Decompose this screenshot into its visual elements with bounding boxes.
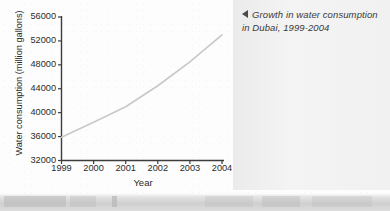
strip-mark: [112, 196, 117, 207]
data-series-line: [62, 35, 223, 137]
strip-mark: [70, 196, 96, 207]
caption-label: Growth in water consumption in Dubai, 19…: [242, 9, 378, 33]
strip-mark: [4, 196, 66, 207]
strip-mark: [205, 196, 253, 207]
figure-caption: Growth in water consumption in Dubai, 19…: [242, 8, 384, 34]
left-triangle-icon: [242, 10, 248, 18]
strip-mark: [312, 196, 372, 207]
strip-mark: [262, 196, 300, 207]
axis-lines: [61, 16, 224, 161]
line-chart: Water consumption (million gallons) 3200…: [0, 0, 236, 193]
plot-area: [0, 0, 236, 193]
page-edge-strip: [0, 193, 390, 211]
page-background: Growth in water consumption in Dubai, 19…: [0, 0, 390, 211]
caption-panel: Growth in water consumption in Dubai, 19…: [233, 0, 390, 190]
